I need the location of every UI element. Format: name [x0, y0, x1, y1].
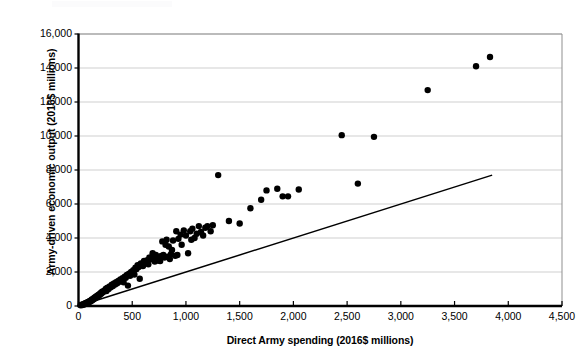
- plot-area: [0, 0, 581, 357]
- scatter-chart-figure: Army-driven economic output (2016$ milli…: [0, 0, 581, 357]
- scatter-point: [236, 220, 242, 226]
- scatter-point: [247, 205, 253, 211]
- scatter-point: [371, 134, 377, 140]
- scatter-point: [189, 225, 195, 231]
- scatter-point: [226, 218, 232, 224]
- scatter-point: [487, 54, 493, 60]
- scatter-point: [163, 237, 169, 243]
- scatter-point: [185, 250, 191, 256]
- scatter-point: [263, 187, 269, 193]
- gridlines: [79, 34, 563, 272]
- scatter-point: [210, 222, 216, 228]
- scatter-point: [285, 193, 291, 199]
- scatter-point: [174, 252, 180, 258]
- scatter-point: [169, 247, 175, 253]
- scatter-point: [424, 87, 430, 93]
- scatter-point: [125, 282, 131, 288]
- scatter-point: [200, 232, 206, 238]
- scatter-point: [215, 172, 221, 178]
- scatter-point: [296, 186, 302, 192]
- scatter-point: [131, 271, 137, 277]
- scatter-points: [77, 54, 493, 309]
- scatter-point: [355, 180, 361, 186]
- scatter-point: [178, 242, 184, 248]
- scatter-point: [196, 223, 202, 229]
- scatter-point: [137, 276, 143, 282]
- scatter-point: [258, 197, 264, 203]
- scatter-point: [207, 228, 213, 234]
- scatter-point: [339, 132, 345, 138]
- scatter-point: [274, 186, 280, 192]
- scatter-point: [473, 63, 479, 69]
